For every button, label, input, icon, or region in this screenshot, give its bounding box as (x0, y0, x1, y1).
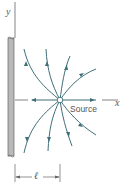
source-label: Source (70, 104, 97, 114)
source-point (57, 97, 63, 103)
arrow-right-icon (90, 98, 95, 102)
dimension-arrow-left-icon (15, 176, 20, 179)
y-axis-label: y (6, 6, 10, 17)
diagram-canvas (0, 0, 125, 184)
arrow-down-icon (66, 132, 70, 137)
arrow-up-icon (45, 61, 49, 66)
arrow-up-icon (24, 61, 28, 66)
distance-label: ℓ (34, 170, 38, 181)
x-axis-label: x (115, 97, 119, 108)
arrow-down-icon (47, 137, 51, 142)
arrow-left-icon (31, 98, 36, 102)
dimension-arrow-right-icon (55, 176, 60, 179)
arrow-up-icon (64, 65, 68, 70)
wall (8, 38, 14, 156)
